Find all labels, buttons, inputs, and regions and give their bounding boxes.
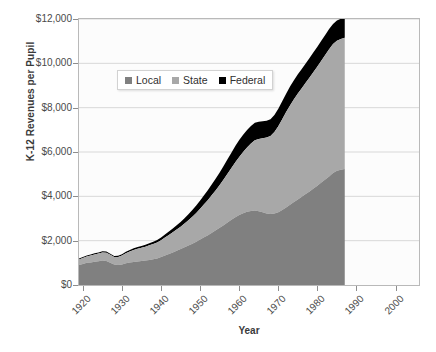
y-axis-tick-labels: $0$2,000$4,000$6,000$8,000$10,000$12,000 [6, 0, 72, 352]
y-axis-tick-label: $10,000 [8, 58, 72, 68]
x-axis-tick-label: 1990 [336, 293, 366, 323]
legend-label: State [183, 75, 208, 85]
y-axis-tick-mark [73, 108, 78, 109]
y-axis-tick-mark [73, 19, 78, 20]
x-axis-tick-mark [396, 286, 397, 291]
plot-area [78, 18, 420, 286]
legend-label: Federal [230, 75, 266, 85]
y-axis-tick-label: $4,000 [8, 191, 72, 201]
stacked-area-series [79, 19, 419, 285]
y-axis-tick-mark [73, 285, 78, 286]
y-axis-tick-mark [73, 241, 78, 242]
x-axis-tick-label: 1930 [101, 293, 131, 323]
y-axis-tick-label: $12,000 [8, 14, 72, 24]
x-axis-tick-label: 1940 [140, 293, 170, 323]
x-axis-tick-label: 2000 [375, 293, 405, 323]
x-axis-tick-mark [239, 286, 240, 291]
legend-entry-state[interactable]: State [172, 75, 208, 85]
y-axis-tick-mark [73, 196, 78, 197]
x-axis-tick-mark [317, 286, 318, 291]
x-axis-title: Year [78, 325, 420, 336]
legend-entry-local[interactable]: Local [125, 75, 161, 85]
y-axis-tick-mark [73, 152, 78, 153]
x-axis-tick-label: 1980 [297, 293, 327, 323]
x-axis-tick-label: 1960 [219, 293, 249, 323]
x-axis-tick-mark [83, 286, 84, 291]
chart-legend: LocalStateFederal [117, 70, 273, 90]
x-axis-tick-label: 1950 [180, 293, 210, 323]
legend-swatch-icon [172, 77, 179, 84]
x-axis-tick-mark [161, 286, 162, 291]
x-axis-tick-mark [278, 286, 279, 291]
x-axis-tick-mark [200, 286, 201, 291]
legend-entry-federal[interactable]: Federal [219, 75, 266, 85]
x-axis-tick-label: 1970 [258, 293, 288, 323]
x-axis-tick-mark [122, 286, 123, 291]
y-axis-tick-label: $6,000 [8, 147, 72, 157]
y-axis-tick-label: $8,000 [8, 103, 72, 113]
y-axis-tick-label: $0 [8, 280, 72, 290]
area-chart: K-12 Revenues per Pupil $0$2,000$4,000$6… [0, 0, 436, 352]
legend-label: Local [136, 75, 161, 85]
y-axis-tick-label: $2,000 [8, 236, 72, 246]
y-axis-tick-mark [73, 63, 78, 64]
legend-swatch-icon [125, 77, 132, 84]
legend-swatch-icon [219, 77, 226, 84]
x-axis-tick-mark [356, 286, 357, 291]
